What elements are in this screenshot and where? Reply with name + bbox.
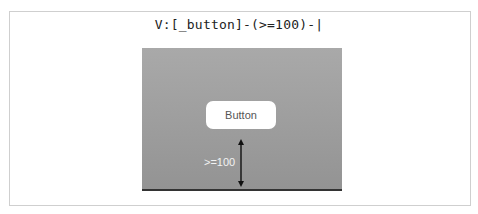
superview-bottom-edge xyxy=(142,189,342,191)
double-arrow-icon xyxy=(240,139,242,187)
button-view: Button xyxy=(206,101,276,129)
spacing-label: >=100 xyxy=(204,156,235,168)
visual-format-string: V:[_button]-(>=100)-| xyxy=(0,17,478,32)
button-label: Button xyxy=(225,109,257,121)
